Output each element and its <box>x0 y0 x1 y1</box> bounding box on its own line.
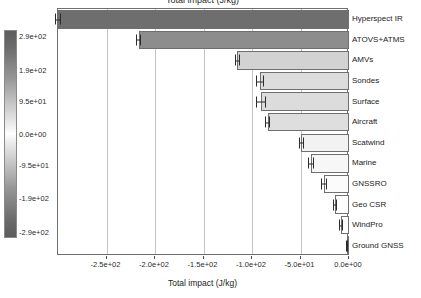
bar-row <box>58 9 347 30</box>
error-bar <box>136 34 142 45</box>
colorbar-tick-label: -2.9e+02 <box>19 227 49 236</box>
bar <box>301 134 349 153</box>
plot-area <box>57 8 348 255</box>
category-label: GNSSRO <box>352 178 387 187</box>
error-bar <box>235 55 241 66</box>
colorbar-gradient <box>4 30 17 238</box>
bar <box>268 113 349 132</box>
bar-row <box>58 112 347 133</box>
error-bar <box>256 96 266 107</box>
bar <box>237 51 349 70</box>
x-tick-label: -5.0e+01 <box>285 260 315 269</box>
bar <box>58 10 349 29</box>
category-label: Marine <box>352 158 376 167</box>
colorbar-tick-label: 9.5e+01 <box>19 96 46 105</box>
bar <box>260 72 349 91</box>
bar-row <box>58 50 347 71</box>
category-label: Sondes <box>352 76 379 85</box>
colorbar-tick-label: 1.9e+02 <box>19 65 46 74</box>
bar <box>261 92 349 111</box>
x-tick-label: -2.0e+02 <box>139 260 169 269</box>
bar-row <box>58 194 347 215</box>
x-tick-mark <box>154 256 155 259</box>
error-bar <box>256 76 264 87</box>
colorbar-tick-label: 0.0e+00 <box>19 130 46 139</box>
error-bar <box>333 199 337 210</box>
x-axis-ticks: -2.5e+02-2.0e+02-1.5e+02-1.0e+02-5.0e+01… <box>57 256 348 270</box>
chart-root: Total impact (J/kg) 2.9e+021.9e+029.5e+0… <box>0 0 421 298</box>
category-label: WindPro <box>352 220 383 229</box>
category-label: Aircraft <box>352 117 377 126</box>
error-bar <box>339 220 343 231</box>
category-label: Ground GNSS <box>352 240 404 249</box>
x-tick-mark <box>348 256 349 259</box>
bar-row <box>58 91 347 112</box>
x-tick-mark <box>300 256 301 259</box>
colorbar-tick-labels: 2.9e+021.9e+029.5e+010.0e+00-9.5e+01-1.9… <box>19 30 52 238</box>
bar-row <box>58 174 347 195</box>
bar-row <box>58 71 347 92</box>
colorbar-tick-label: 2.9e+02 <box>19 32 46 41</box>
x-tick-label: -2.5e+02 <box>91 260 121 269</box>
x-tick-label: 0.0e+00 <box>334 260 361 269</box>
bar-row <box>58 30 347 51</box>
error-bar <box>55 14 61 25</box>
error-bar <box>346 240 349 251</box>
category-label: ATOVS+ATMS <box>352 34 405 43</box>
bar <box>335 195 349 214</box>
bar <box>324 175 349 194</box>
colorbar: 2.9e+021.9e+029.5e+010.0e+00-9.5e+01-1.9… <box>4 30 52 238</box>
error-bar <box>265 117 271 128</box>
category-label: Scatwind <box>352 137 384 146</box>
colorbar-tick-label: -9.5e+01 <box>19 161 49 170</box>
category-label: Hyperspect IR <box>352 14 403 23</box>
colorbar-tick-label: -1.9e+02 <box>19 194 49 203</box>
category-label: Surface <box>352 96 380 105</box>
bar-row <box>58 235 347 256</box>
x-tick-label: -1.5e+02 <box>188 260 218 269</box>
x-axis-title: Total impact (J/kg) <box>57 278 348 288</box>
error-bar <box>308 158 314 169</box>
category-axis-labels: Hyperspect IRATOVS+ATMSAMVsSondesSurface… <box>352 8 421 255</box>
category-label: Geo CSR <box>352 199 386 208</box>
category-label: AMVs <box>352 55 373 64</box>
x-tick-mark <box>251 256 252 259</box>
chart-title: Total impact (J/kg) <box>57 0 348 5</box>
x-tick-mark <box>203 256 204 259</box>
error-bar <box>321 178 327 189</box>
x-tick-label: -1.0e+02 <box>236 260 266 269</box>
bar <box>311 154 349 173</box>
bar-row <box>58 133 347 154</box>
bar <box>139 31 349 50</box>
bar-row <box>58 215 347 236</box>
error-bar <box>299 137 305 148</box>
x-tick-mark <box>106 256 107 259</box>
bar-row <box>58 153 347 174</box>
